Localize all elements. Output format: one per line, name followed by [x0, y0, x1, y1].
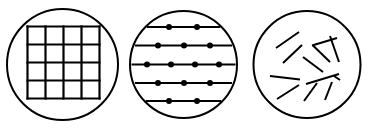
panel-lines-dots: [130, 11, 237, 118]
pattern-segment: [283, 45, 302, 63]
pattern-segment: [303, 57, 323, 72]
pattern-point: [207, 80, 213, 86]
pattern-point: [192, 62, 198, 68]
pattern-segment: [334, 76, 340, 80]
pattern-segment: [276, 32, 299, 48]
panel-grid: [7, 9, 118, 120]
pattern-segment: [325, 82, 332, 100]
pattern-point: [207, 43, 213, 49]
pattern-segment: [330, 36, 339, 62]
pattern-segment: [270, 76, 300, 80]
pattern-point: [155, 80, 161, 86]
pattern-circle-outline: [254, 11, 361, 118]
random-segment-pattern: [270, 32, 340, 101]
pattern-segment: [306, 74, 339, 84]
pattern-point: [194, 98, 200, 104]
pattern-point: [216, 62, 222, 68]
pattern-point: [155, 43, 161, 49]
pattern-segment: [313, 46, 330, 63]
pattern-point: [181, 43, 187, 49]
pattern-point: [144, 62, 150, 68]
panel-random-segments: [254, 11, 361, 118]
pattern-point: [181, 80, 187, 86]
line-and-dot-pattern: [132, 24, 236, 104]
pattern-point: [166, 98, 172, 104]
pattern-segment: [304, 83, 317, 101]
pattern-segment: [277, 85, 299, 99]
pattern-point: [168, 62, 174, 68]
pattern-point: [194, 24, 200, 30]
square-lattice: [28, 27, 100, 99]
figure-panel: [0, 0, 368, 129]
pattern-point: [166, 24, 172, 30]
three-circle-pattern-diagram: [0, 0, 368, 129]
